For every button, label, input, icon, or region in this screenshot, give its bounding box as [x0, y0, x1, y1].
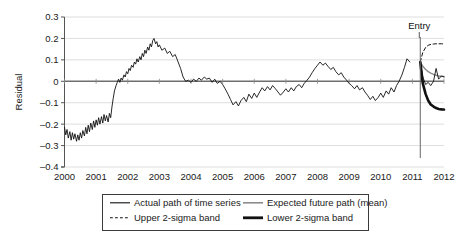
x-tick-label: 2006 [244, 171, 265, 182]
residual-forecast-chart: 0.30.20.10–0.1–0.2–0.3–0.4 2000200120022… [0, 0, 458, 238]
y-tick-label: 0.2 [45, 33, 58, 44]
legend-label-2: Upper 2-sigma band [134, 212, 220, 223]
legend-label-0: Actual path of time series [134, 197, 241, 208]
x-tick-label: 2002 [117, 171, 138, 182]
x-tick-label: 2005 [212, 171, 233, 182]
x-tick-label: 2012 [433, 171, 454, 182]
x-tick-label: 2009 [339, 171, 360, 182]
y-tick-label: –0.1 [40, 97, 59, 108]
legend-label-1: Expected future path (mean) [267, 197, 387, 208]
legend-label-3: Lower 2-sigma band [267, 212, 353, 223]
y-tick-label: –0.2 [40, 119, 59, 130]
chart-root: 0.30.20.10–0.1–0.2–0.3–0.4 2000200120022… [0, 0, 458, 238]
x-tick-label: 2000 [54, 171, 75, 182]
y-tick-label: 0.3 [45, 11, 58, 22]
x-tick-label: 2004 [180, 171, 201, 182]
x-tick-label: 2010 [370, 171, 391, 182]
x-tick-label: 2003 [149, 171, 170, 182]
entry-label: Entry [408, 20, 430, 31]
x-tick-label: 2008 [307, 171, 328, 182]
x-tick-label: 2001 [86, 171, 107, 182]
y-tick-label: –0.3 [40, 140, 59, 151]
y-axis-title: Residual [13, 74, 24, 111]
y-tick-label: 0.1 [45, 54, 58, 65]
x-tick-label: 2007 [275, 171, 296, 182]
y-tick-label: 0 [53, 76, 58, 87]
x-tick-label: 2011 [402, 171, 422, 182]
